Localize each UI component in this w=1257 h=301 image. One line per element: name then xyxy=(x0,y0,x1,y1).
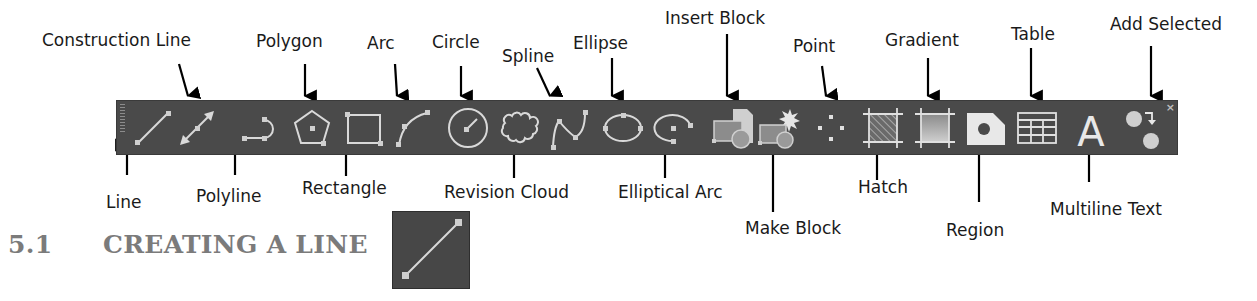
spline-icon xyxy=(547,105,593,151)
draw-toolbar: × xyxy=(116,100,1178,155)
tool-arc-button[interactable] xyxy=(391,105,437,151)
multiline-text-icon: A xyxy=(1068,105,1114,151)
section-title: CREATING A LINE xyxy=(103,230,368,259)
polyline-icon xyxy=(239,105,285,151)
tool-elliptical-arc-button[interactable] xyxy=(649,105,695,151)
hatch-icon xyxy=(860,105,906,151)
tool-make-block-button[interactable] xyxy=(757,105,803,151)
callout-construction-line: Construction Line xyxy=(42,30,191,50)
tool-multiline-text-button[interactable]: A xyxy=(1068,105,1114,151)
revision-cloud-icon xyxy=(495,105,541,151)
polygon-icon xyxy=(289,105,335,151)
callout-ellipse: Ellipse xyxy=(573,33,628,53)
section-line-icon-tile xyxy=(392,211,470,289)
elliptical-arc-icon xyxy=(649,105,695,151)
callout-add-selected: Add Selected xyxy=(1110,14,1222,34)
tool-table-button[interactable] xyxy=(1014,105,1060,151)
section-heading: 5.1CREATING A LINE xyxy=(8,230,368,259)
tool-construction-line-button[interactable] xyxy=(174,105,220,151)
svg-text:A: A xyxy=(1077,109,1105,151)
tool-spline-button[interactable] xyxy=(547,105,593,151)
ellipse-icon xyxy=(600,105,646,151)
tool-rectangle-button[interactable] xyxy=(340,105,386,151)
callout-rectangle: Rectangle xyxy=(302,178,387,198)
callout-insert-block: Insert Block xyxy=(665,8,765,28)
circle-icon xyxy=(445,105,491,151)
callout-line: Line xyxy=(106,192,141,212)
tool-ellipse-button[interactable] xyxy=(600,105,646,151)
arc-icon xyxy=(391,105,437,151)
callout-arc: Arc xyxy=(367,33,395,53)
callout-polyline: Polyline xyxy=(196,186,262,206)
tool-revision-cloud-button[interactable] xyxy=(495,105,541,151)
tool-region-button[interactable] xyxy=(963,105,1009,151)
callout-revision-cloud: Revision Cloud xyxy=(444,182,569,202)
gradient-icon xyxy=(912,105,958,151)
callout-make-block: Make Block xyxy=(745,218,841,238)
toolbar-grip-handle[interactable] xyxy=(120,104,125,134)
callout-point: Point xyxy=(793,36,835,56)
callout-multiline-text: Multiline Text xyxy=(1050,199,1162,219)
callout-hatch: Hatch xyxy=(858,177,908,197)
callout-spline: Spline xyxy=(502,46,554,66)
insert-block-icon xyxy=(711,105,757,151)
line-icon xyxy=(130,105,176,151)
tool-gradient-button[interactable] xyxy=(912,105,958,151)
callout-gradient: Gradient xyxy=(885,30,959,50)
callout-polygon: Polygon xyxy=(256,31,323,51)
tool-add-selected-button[interactable] xyxy=(1121,105,1167,151)
tool-hatch-button[interactable] xyxy=(860,105,906,151)
add-selected-icon xyxy=(1121,105,1167,151)
tool-polygon-button[interactable] xyxy=(289,105,335,151)
tool-point-button[interactable] xyxy=(808,105,854,151)
section-number: 5.1 xyxy=(8,230,103,259)
tool-line-button[interactable] xyxy=(130,105,176,151)
tool-circle-button[interactable] xyxy=(445,105,491,151)
point-icon xyxy=(808,105,854,151)
tool-insert-block-button[interactable] xyxy=(711,105,757,151)
construction-line-icon xyxy=(174,105,220,151)
rectangle-icon xyxy=(340,105,386,151)
callout-circle: Circle xyxy=(432,32,480,52)
callout-region: Region xyxy=(946,220,1004,240)
region-icon xyxy=(963,105,1009,151)
callout-table: Table xyxy=(1011,24,1055,44)
make-block-icon xyxy=(757,105,803,151)
table-icon xyxy=(1014,105,1060,151)
toolbar-close-button[interactable]: × xyxy=(1166,102,1175,113)
callout-elliptical-arc: Elliptical Arc xyxy=(618,182,723,202)
line-icon xyxy=(392,211,470,289)
tool-polyline-button[interactable] xyxy=(239,105,285,151)
